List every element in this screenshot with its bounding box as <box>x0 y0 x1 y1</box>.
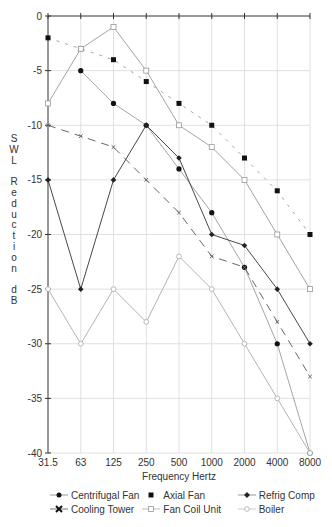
y-tick-label: -35 <box>28 393 43 404</box>
y-tick-label: -30 <box>28 338 43 349</box>
x-tick-label: 125 <box>105 457 122 468</box>
y-tick-label: -15 <box>28 174 43 185</box>
circle-marker-icon <box>50 490 68 500</box>
y-tick-label: -25 <box>28 284 43 295</box>
x-axis-title: Frequency Hertz <box>142 471 216 482</box>
line-chart: 0-5-10-15-20-25-30-35-4031.5631252505001… <box>0 0 332 490</box>
x-tick-label: 500 <box>171 457 188 468</box>
y-tick-label: 0 <box>36 11 42 22</box>
legend-item-axial-fan[interactable]: Axial Fan <box>142 490 237 501</box>
square-marker-icon <box>142 490 160 500</box>
legend-item-fan-coil-unit[interactable]: Fan Coil Unit <box>142 504 237 515</box>
legend-item-boiler[interactable]: Boiler <box>238 504 330 515</box>
legend-label: Axial Fan <box>163 490 205 501</box>
legend-label: Centrifugal Fan <box>71 490 139 501</box>
legend-item-refrig-comp[interactable]: Refrig Comp <box>238 490 330 501</box>
y-tick-label: -10 <box>28 120 43 131</box>
x-tick-label: 31.5 <box>38 457 58 468</box>
x-tick-label: 8000 <box>299 457 322 468</box>
legend-row: Centrifugal Fan Axial Fan Refrig Comp <box>50 488 330 502</box>
y-axis-title-char: W <box>8 145 20 156</box>
legend-label: Cooling Tower <box>71 504 134 515</box>
open-square-marker-icon <box>142 504 160 514</box>
x-marker-icon <box>50 504 68 514</box>
x-tick-label: 4000 <box>266 457 289 468</box>
legend-item-centrifugal-fan[interactable]: Centrifugal Fan <box>50 490 142 501</box>
x-tick-label: 63 <box>75 457 87 468</box>
y-axis-title-char: o <box>8 253 20 264</box>
y-tick-label: -20 <box>28 229 43 240</box>
legend: Centrifugal Fan Axial Fan Refrig Comp Co… <box>50 488 330 516</box>
y-axis-title-char: d <box>8 199 20 210</box>
legend-label: Boiler <box>259 504 285 515</box>
y-axis-title: SWL Reduction dB <box>8 134 20 307</box>
diamond-marker-icon <box>238 490 256 500</box>
y-tick-label: -5 <box>33 65 42 76</box>
x-tick-label: 2000 <box>233 457 256 468</box>
legend-label: Fan Coil Unit <box>163 504 221 515</box>
x-tick-label: 250 <box>138 457 155 468</box>
open-circle-marker-icon <box>238 504 256 514</box>
legend-label: Refrig Comp <box>259 490 315 501</box>
x-tick-label: 1000 <box>201 457 224 468</box>
legend-item-cooling-tower[interactable]: Cooling Tower <box>50 504 142 515</box>
y-axis-title-char: B <box>8 296 20 307</box>
legend-row: Cooling Tower Fan Coil Unit Boiler <box>50 502 330 516</box>
